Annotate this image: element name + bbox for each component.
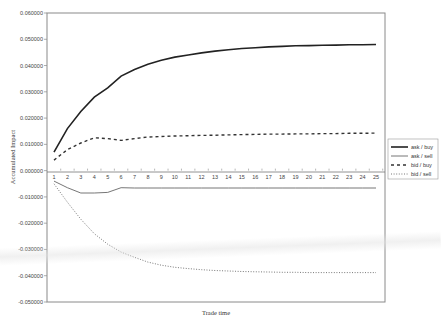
x-tick-label: 25: [373, 174, 379, 180]
x-tick-label: 14: [225, 174, 231, 180]
x-tick-label: 20: [306, 174, 312, 180]
x-tick-label: 8: [146, 174, 149, 180]
series-ask-buy-line: [54, 45, 376, 153]
y-tick-label: -0.040000: [18, 273, 43, 279]
y-tick-label: -0.010000: [18, 194, 43, 200]
y-axis-ticks: 0.0600000.0500000.0400000.0300000.020000…: [18, 10, 47, 305]
legend-label: ask / sell: [411, 153, 432, 159]
series-bid-sell-line: [54, 184, 376, 273]
y-tick-label: -0.020000: [18, 220, 43, 226]
x-tick-label: 19: [292, 174, 298, 180]
x-tick-label: 18: [279, 174, 285, 180]
y-tick-label: -0.030000: [18, 246, 43, 252]
x-tick-label: 6: [120, 174, 123, 180]
y-tick-label: -0.050000: [18, 299, 43, 305]
legend-label: bid / sell: [411, 171, 431, 177]
y-tick-label: 0.020000: [20, 115, 43, 121]
x-tick-label: 21: [319, 174, 325, 180]
legend: ask / buyask / sellbid / buybid / sell: [388, 139, 438, 179]
x-axis-ticks: 1234567891011121314151617181920212223242…: [52, 169, 382, 180]
x-tick-label: 24: [360, 174, 366, 180]
x-tick-label: 1: [52, 174, 55, 180]
plot-area: [47, 13, 385, 302]
x-tick-label: 3: [79, 174, 82, 180]
x-tick-label: 9: [160, 174, 163, 180]
x-tick-label: 11: [185, 174, 191, 180]
x-tick-label: 10: [172, 174, 178, 180]
x-tick-label: 13: [212, 174, 218, 180]
series-bid-buy-line: [54, 133, 376, 160]
y-tick-label: 0.050000: [20, 36, 43, 42]
legend-label: bid / buy: [411, 162, 432, 168]
x-tick-label: 22: [333, 174, 339, 180]
x-tick-label: 17: [266, 174, 272, 180]
x-tick-label: 16: [252, 174, 258, 180]
y-tick-label: 0.030000: [20, 89, 43, 95]
data-series: [54, 45, 376, 273]
x-tick-label: 23: [346, 174, 352, 180]
x-axis-title: Trade time: [202, 309, 230, 316]
x-tick-label: 5: [106, 174, 109, 180]
y-tick-label: 0.060000: [20, 10, 43, 16]
x-tick-label: 12: [199, 174, 205, 180]
y-tick-label: 0.010000: [20, 141, 43, 147]
y-tick-label: 0.040000: [20, 63, 43, 69]
legend-label: ask / buy: [411, 144, 433, 150]
x-tick-label: 4: [93, 174, 96, 180]
chart-canvas: 0.0600000.0500000.0400000.0300000.020000…: [0, 0, 441, 324]
y-tick-label: 0.000000: [20, 168, 43, 174]
x-tick-label: 2: [66, 174, 69, 180]
y-axis-title: Accumulated Impact: [9, 130, 16, 185]
x-tick-label: 15: [239, 174, 245, 180]
series-ask-sell-line: [54, 181, 376, 193]
x-tick-label: 7: [133, 174, 136, 180]
